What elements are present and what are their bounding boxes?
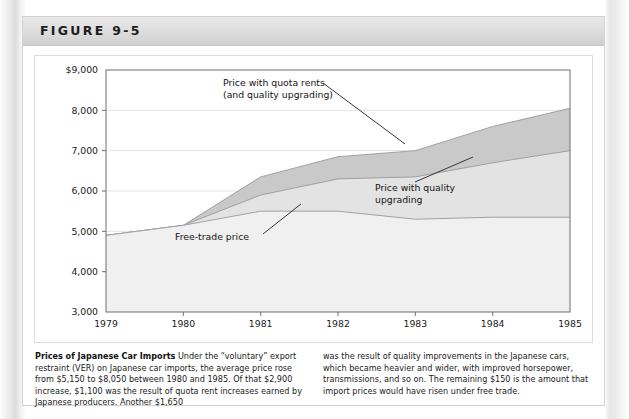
x-axis-tick-label: 1983 — [403, 318, 427, 329]
figure-label: FIGURE 9-5 — [40, 23, 142, 38]
y-axis-tick-label: 4,000 — [71, 266, 98, 277]
annotation-quality-upgrading-line2: upgrading — [375, 194, 423, 205]
annotation-quality-upgrading-line1: Price with quality — [375, 182, 456, 193]
caption-text-right: was the result of quality improvements i… — [323, 351, 588, 396]
area-chart-svg: $9,0008,0007,0006,0005,0004,0003,0001979… — [35, 56, 594, 344]
chart-area: $9,0008,0007,0006,0005,0004,0003,0001979… — [35, 56, 594, 344]
page-left-gutter-shadow — [0, 0, 22, 419]
chart-panel: $9,0008,0007,0006,0005,0004,0003,0001979… — [34, 55, 593, 343]
y-axis-tick-label: 6,000 — [71, 185, 98, 196]
y-axis-tick-label: 8,000 — [71, 105, 98, 116]
caption-column-left: Prices of Japanese Car Imports Under the… — [35, 351, 307, 409]
annotation-quota-rents-leader — [323, 83, 405, 144]
x-axis-tick-label: 1981 — [249, 318, 273, 329]
y-axis-tick-label: $9,000 — [65, 64, 98, 75]
x-axis-tick-label: 1979 — [94, 318, 118, 329]
x-axis-tick-label: 1985 — [558, 318, 582, 329]
y-axis-tick-label: 7,000 — [71, 145, 98, 156]
x-axis-tick-label: 1980 — [171, 318, 195, 329]
caption-column-right: was the result of quality improvements i… — [323, 351, 595, 409]
annotation-quota-rents-line2: (and quality upgrading) — [223, 89, 333, 100]
y-axis-tick-label: 3,000 — [71, 306, 98, 317]
annotation-quota-rents-line1: Price with quota rents — [223, 77, 325, 88]
annotation-free-trade-line1: Free-trade price — [175, 231, 249, 242]
x-axis-tick-label: 1982 — [326, 318, 350, 329]
page-right-gutter-shadow — [605, 0, 629, 419]
caption-title: Prices of Japanese Car Imports — [35, 351, 175, 361]
figure-page: FIGURE 9-5 $9,0008,0007,0006,0005,0004,0… — [0, 0, 629, 419]
figure-caption: Prices of Japanese Car Imports Under the… — [35, 351, 595, 409]
figure-frame: FIGURE 9-5 $9,0008,0007,0006,0005,0004,0… — [22, 16, 605, 406]
y-axis-tick-label: 5,000 — [71, 226, 98, 237]
x-axis-tick-label: 1984 — [481, 318, 505, 329]
